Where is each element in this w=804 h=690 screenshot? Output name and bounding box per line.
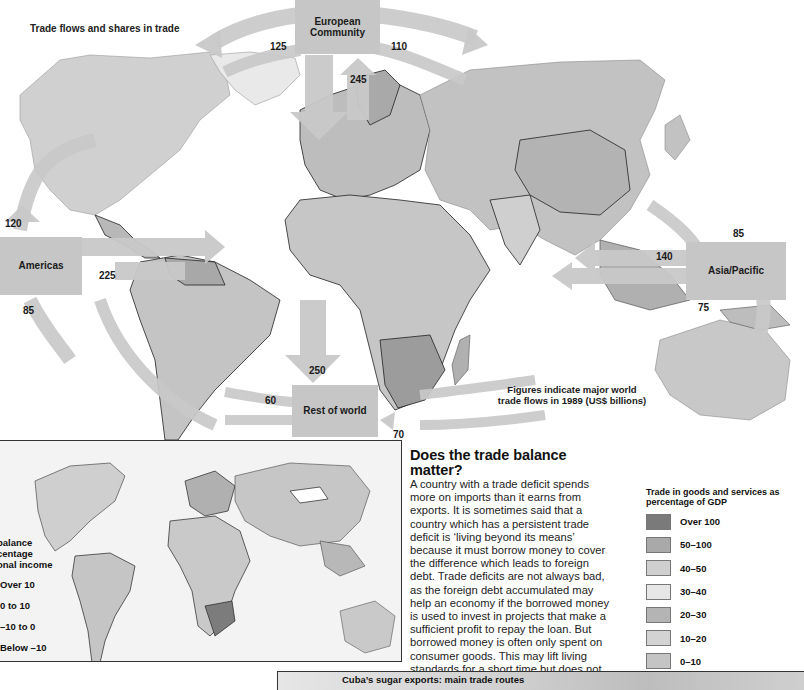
article-body: A country with a trade deficit spends mo…: [410, 478, 610, 689]
region-asia-pacific: Asia/Pacific: [686, 242, 786, 300]
flow-value: 85: [23, 305, 34, 316]
legend-swatch: [646, 514, 671, 530]
legend-balance-item: Below –10: [0, 637, 70, 658]
legend-swatch: [646, 630, 671, 646]
legend-gdp-label: 10–20: [680, 633, 706, 644]
flow-value: 225: [99, 270, 116, 281]
legend-gdp-label: Over 100: [680, 516, 720, 527]
cuba-panel-title: Cuba’s sugar exports: main trade routes: [342, 674, 524, 685]
flow-value: 85: [733, 228, 744, 239]
land-japan: [665, 115, 690, 160]
region-label-americas: Americas: [18, 260, 63, 272]
region-label-rest-of-world: Rest of world: [303, 405, 366, 417]
flow-value: 250: [309, 365, 326, 376]
region-americas: Americas: [0, 237, 82, 295]
land-north-america: [20, 52, 250, 215]
flows-note: Figures indicate major world trade flows…: [497, 384, 647, 407]
legend-gdp-item: 10–20: [646, 626, 804, 649]
trade-balance-article: Does the trade balance matter? A country…: [410, 448, 610, 689]
legend-gdp-item: 0–10: [646, 650, 804, 673]
legend-swatch: [646, 607, 671, 623]
legend-gdp-label: 20–30: [680, 609, 706, 620]
legend-gdp-label: 30–40: [680, 586, 706, 597]
inset-australia: [340, 601, 395, 653]
flow-value: 60: [265, 395, 276, 406]
land-madagascar: [452, 335, 470, 385]
land-australia: [655, 320, 790, 420]
region-label-ec: European Community: [307, 16, 369, 39]
legend-gdp-label: 50–100: [680, 539, 712, 550]
flow-value: 245: [350, 74, 367, 85]
legend-gdp-item: Over 100: [646, 510, 804, 533]
flow-value: 125: [270, 41, 287, 52]
article-heading: Does the trade balance matter?: [410, 448, 610, 477]
land-india: [490, 195, 540, 265]
world-map: [0, 0, 804, 440]
legend-balance-title-line: onal income: [0, 559, 70, 570]
legend-trade-balance: balance centage onal income Over 10 0 to…: [0, 537, 70, 658]
inset-southeast-asia: [320, 541, 365, 576]
legend-balance-item: –10 to 0: [0, 616, 70, 637]
cuba-sugar-exports-panel: Cuba’s sugar exports: main trade routes: [277, 671, 804, 690]
flow-value: 110: [391, 41, 407, 52]
legend-balance-item: 0 to 10: [0, 595, 70, 616]
flow-value: 75: [698, 302, 709, 313]
legend-swatch: [646, 653, 671, 669]
flow-value: 70: [393, 429, 404, 440]
legend-gdp-label: 0–10: [680, 656, 701, 667]
legend-gdp-item: 50–100: [646, 533, 804, 556]
legend-swatch: [646, 560, 671, 576]
legend-gdp-label: 40–50: [680, 563, 706, 574]
legend-swatch: [646, 584, 671, 600]
legend-gdp-item: 20–30: [646, 603, 804, 626]
flow-value: 120: [5, 218, 22, 229]
region-european-community: European Community: [295, 0, 380, 54]
legend-trade-gdp: Trade in goods and services as percentag…: [646, 487, 804, 673]
inset-europe: [185, 471, 235, 516]
region-rest-of-world: Rest of world: [292, 385, 378, 437]
legend-balance-item: Over 10: [0, 574, 70, 595]
region-label-asia-pacific: Asia/Pacific: [708, 265, 764, 277]
legend-gdp-item: 40–50: [646, 557, 804, 580]
legend-swatch: [646, 537, 671, 553]
legend-balance-title-line: balance: [0, 537, 70, 548]
inset-asia: [235, 463, 370, 546]
inset-south-america: [72, 553, 135, 662]
flow-value: 140: [656, 251, 673, 262]
legend-gdp-title: Trade in goods and services as percentag…: [646, 487, 804, 507]
legend-gdp-item: 30–40: [646, 580, 804, 603]
legend-balance-title-line: centage: [0, 548, 70, 559]
map-title: Trade flows and shares in trade: [30, 23, 180, 34]
